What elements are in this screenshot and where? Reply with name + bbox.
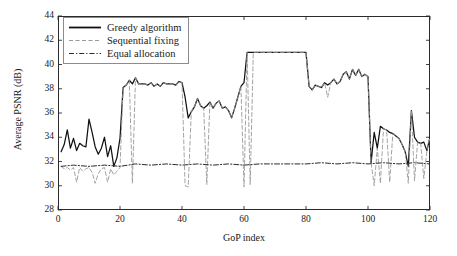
legend-label-1: Greedy algorithm bbox=[107, 22, 181, 33]
x-tick-60: 60 bbox=[229, 215, 259, 225]
x-tick-0: 0 bbox=[43, 215, 73, 225]
series-line-3 bbox=[61, 163, 430, 167]
y-tick-40: 40 bbox=[32, 60, 54, 70]
legend-label-3: Equal allocation bbox=[107, 48, 176, 59]
figure: 283032343638404244 020406080100120 Avera… bbox=[0, 0, 457, 256]
y-tick-30: 30 bbox=[32, 181, 54, 191]
y-tick-28: 28 bbox=[32, 205, 54, 215]
y-tick-44: 44 bbox=[32, 11, 54, 21]
x-tick-80: 80 bbox=[291, 215, 321, 225]
y-tick-32: 32 bbox=[32, 157, 54, 167]
y-tick-38: 38 bbox=[32, 84, 54, 94]
legend-item-1[interactable]: Greedy algorithm bbox=[68, 21, 181, 34]
y-axis-title: Average PSNR (dB) bbox=[12, 45, 23, 175]
x-axis-tick-labels: 020406080100120 bbox=[0, 215, 457, 229]
x-axis-title: GoP index bbox=[58, 232, 430, 243]
x-tick-20: 20 bbox=[105, 215, 135, 225]
legend-item-2[interactable]: Sequential fixing bbox=[68, 34, 181, 47]
y-tick-34: 34 bbox=[32, 132, 54, 142]
y-tick-36: 36 bbox=[32, 108, 54, 118]
legend: Greedy algorithmSequential fixingEqual a… bbox=[63, 17, 189, 64]
x-tick-120: 120 bbox=[415, 215, 445, 225]
legend-swatch-solid bbox=[68, 22, 102, 33]
y-tick-42: 42 bbox=[32, 35, 54, 45]
legend-label-2: Sequential fixing bbox=[107, 35, 179, 46]
legend-swatch-dashed bbox=[68, 35, 102, 46]
x-tick-100: 100 bbox=[353, 215, 383, 225]
legend-item-3[interactable]: Equal allocation bbox=[68, 47, 181, 60]
x-tick-40: 40 bbox=[167, 215, 197, 225]
legend-swatch-dashdot bbox=[68, 48, 102, 59]
